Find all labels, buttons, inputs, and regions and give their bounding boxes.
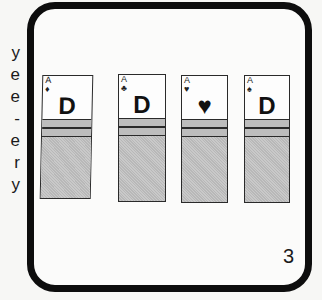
card-2: A ♣ D	[118, 74, 166, 202]
card-lower-shading	[119, 136, 165, 201]
card-center-glyph: D	[245, 93, 289, 119]
card-band	[182, 119, 227, 137]
side-letter: y	[12, 42, 21, 64]
card-center-glyph: D	[42, 93, 92, 119]
side-letter: y	[12, 174, 21, 196]
card-band	[245, 119, 289, 137]
side-letter: e	[11, 86, 20, 108]
card-3: A ♥ ♥	[181, 75, 228, 203]
heart-icon: ♥	[182, 93, 227, 119]
card-lower-shading	[245, 137, 289, 202]
card-lower-shading	[41, 137, 91, 198]
page-number: 3	[283, 245, 294, 268]
side-letter: r	[14, 152, 20, 174]
card-lower-shading	[182, 137, 227, 202]
card-1: A ♦ D	[40, 75, 94, 199]
cropped-side-text: y e e - e r y	[0, 42, 20, 196]
side-letter: -	[14, 108, 20, 130]
card-band	[119, 118, 165, 136]
card-4: A ♠ D	[244, 75, 290, 203]
side-letter: e	[11, 130, 20, 152]
card-band	[42, 119, 91, 137]
side-letter: e	[11, 64, 20, 86]
card-center-glyph: D	[119, 92, 165, 118]
